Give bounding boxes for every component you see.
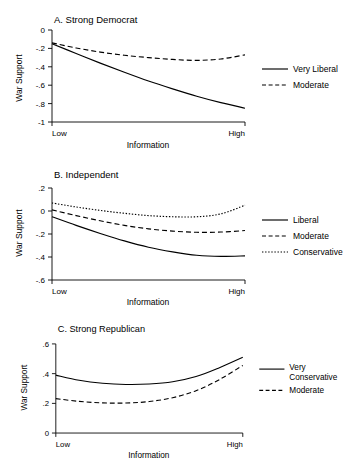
panel-a-legend-label-0: Very Liberal xyxy=(293,64,338,74)
panel-a-plot: A. Strong Democrat War Support 0 -.2 -.4… xyxy=(0,0,348,155)
panel-b-ylabel: War Support xyxy=(14,209,24,257)
panel-b-xticks: Low High xyxy=(52,280,245,296)
panel-independent: B. Independent War Support .2 0 -.2 -.4 … xyxy=(0,155,348,310)
panel-a-ytick-3: -.6 xyxy=(36,81,46,90)
panel-a-legend-label-1: Moderate xyxy=(293,80,329,90)
panel-a-ytick-5: -1 xyxy=(38,118,46,127)
panel-c-ytick-0: .6 xyxy=(43,340,49,349)
figure-container: A. Strong Democrat War Support 0 -.2 -.4… xyxy=(0,0,348,470)
panel-c-legend: Very Conservative Moderate xyxy=(259,363,337,395)
panel-b-ytick-1: 0 xyxy=(41,207,46,216)
panel-c-legend-label-moderate: Moderate xyxy=(289,386,324,395)
panel-a-xticks: Low High xyxy=(52,122,245,138)
panel-a-ytick-2: -.4 xyxy=(36,63,46,72)
panel-b-series-conservative xyxy=(52,203,245,217)
panel-b-series-moderate xyxy=(52,210,245,232)
panel-b-legend-label-0: Liberal xyxy=(293,215,319,225)
panel-c-ytick-3: 0 xyxy=(45,429,49,438)
panel-b-ytick-2: -.2 xyxy=(36,230,46,239)
panel-b-xlabel: Information xyxy=(127,297,170,307)
panel-b-legend-label-2: Conservative xyxy=(293,247,343,257)
panel-b-ytick-4: -.6 xyxy=(36,276,46,285)
panel-a-xlabel: Information xyxy=(127,140,170,150)
panel-c-xtick-low: Low xyxy=(56,440,71,449)
panel-c-yticks: .6 .4 .2 0 xyxy=(43,340,56,438)
panel-b-title: B. Independent xyxy=(54,169,119,180)
panel-a-xtick-high: High xyxy=(229,129,245,138)
panel-a-title: A. Strong Democrat xyxy=(54,14,138,25)
panel-b-plot: B. Independent War Support .2 0 -.2 -.4 … xyxy=(0,155,348,310)
panel-b-xtick-low: Low xyxy=(52,287,67,296)
panel-a-legend: Very Liberal Moderate xyxy=(262,64,338,90)
panel-strong-republican: C. Strong Republican War Support .6 .4 .… xyxy=(0,310,348,465)
panel-b-series-liberal xyxy=(52,217,245,257)
panel-c-title: C. Strong Republican xyxy=(58,324,145,334)
panel-a-ylabel: War Support xyxy=(14,54,24,102)
panel-c-legend-label-conservative: Conservative xyxy=(289,373,337,382)
panel-a-series-very-liberal xyxy=(52,44,245,108)
panel-a-series-moderate xyxy=(52,43,245,60)
panel-c-ytick-2: .2 xyxy=(43,399,49,408)
panel-strong-democrat: A. Strong Democrat War Support 0 -.2 -.4… xyxy=(0,0,348,155)
panel-c-xtick-high: High xyxy=(227,440,243,449)
panel-c-xlabel: Information xyxy=(128,451,170,460)
panel-a-ytick-4: -.8 xyxy=(36,100,46,109)
panel-c-ytick-1: .4 xyxy=(43,370,50,379)
panel-c-xticks: Low High xyxy=(56,433,243,449)
panel-b-ytick-3: -.4 xyxy=(36,253,46,262)
panel-c-ylabel: War Support xyxy=(20,364,29,411)
panel-b-yticks: .2 0 -.2 -.4 -.6 xyxy=(36,184,52,285)
panel-b-ytick-0: .2 xyxy=(38,184,45,193)
panel-b-legend: Liberal Moderate Conservative xyxy=(262,215,343,257)
panel-a-ytick-0: 0 xyxy=(41,26,46,35)
panel-a-yticks: 0 -.2 -.4 -.6 -.8 -1 xyxy=(36,26,52,127)
panel-b-legend-label-1: Moderate xyxy=(293,231,329,241)
panel-a-ytick-1: -.2 xyxy=(36,44,46,53)
panel-c-series-very-conservative xyxy=(56,357,243,384)
panel-a-xtick-low: Low xyxy=(52,129,67,138)
panel-b-xtick-high: High xyxy=(229,287,245,296)
panel-c-plot: C. Strong Republican War Support .6 .4 .… xyxy=(0,310,348,465)
panel-c-legend-label-very: Very xyxy=(289,363,306,372)
